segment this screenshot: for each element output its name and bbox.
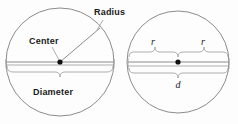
circle-diagram-figure: Center Radius Diameter r r d bbox=[0, 0, 238, 124]
right-radius-brace-left bbox=[129, 47, 178, 57]
radius-label: Radius bbox=[94, 7, 125, 17]
left-circle-group: Center Radius Diameter bbox=[6, 7, 125, 116]
right-center-dot bbox=[175, 59, 180, 64]
diameter-label: Diameter bbox=[33, 87, 73, 97]
radius-line bbox=[60, 28, 100, 62]
diagram-canvas: Center Radius Diameter r r d bbox=[0, 0, 238, 124]
radius-label-right: r bbox=[201, 36, 205, 47]
diameter-label-d: d bbox=[176, 79, 182, 90]
right-circle-group: r r d bbox=[127, 11, 229, 113]
center-label: Center bbox=[29, 36, 59, 46]
left-center-dot bbox=[57, 59, 62, 64]
radius-label-left: r bbox=[151, 36, 155, 47]
left-diameter-brace bbox=[7, 66, 113, 77]
right-radius-brace-right bbox=[178, 47, 228, 57]
center-leader-line bbox=[52, 47, 59, 60]
right-diameter-brace bbox=[129, 68, 228, 78]
